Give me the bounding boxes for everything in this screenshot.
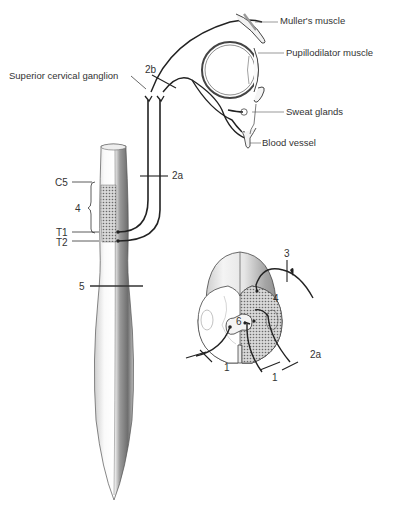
- label-pupillodilator-muscle: Pupillodilator muscle: [286, 47, 373, 58]
- spinal-cord: [94, 144, 133, 500]
- label-2b: 2b: [145, 64, 156, 75]
- label-3: 3: [284, 248, 290, 259]
- label-4: 4: [75, 203, 81, 214]
- label-5: 5: [79, 281, 85, 292]
- label-1-right: 1: [272, 372, 278, 383]
- label-4-cross-section: 4: [273, 293, 279, 304]
- cord-cross-section: [198, 252, 282, 363]
- label-1-left: 1: [224, 362, 230, 373]
- label-t2: T2: [56, 237, 68, 248]
- label-muller-muscle: Muller's muscle: [280, 15, 345, 26]
- ganglion-synapses: [131, 76, 164, 101]
- label-superior-cervical-ganglion: Superior cervical ganglion: [9, 70, 118, 81]
- eye: [202, 14, 265, 148]
- label-c5: C5: [55, 177, 68, 188]
- label-2a-upper: 2a: [172, 170, 183, 181]
- label-2a-cross-section: 2a: [310, 349, 321, 360]
- label-6: 6: [236, 316, 242, 327]
- label-sweat-glands: Sweat glands: [286, 106, 343, 117]
- label-blood-vessel: Blood vessel: [262, 137, 316, 148]
